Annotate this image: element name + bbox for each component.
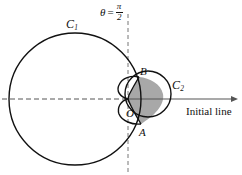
initial-line-arrowhead xyxy=(231,96,238,102)
diagram-canvas xyxy=(0,0,242,175)
theta-symbol: θ xyxy=(100,7,105,18)
label-curve-c1-subscript: 1 xyxy=(74,23,78,32)
label-point-a: A xyxy=(139,127,146,138)
equals-sign: = xyxy=(107,7,113,18)
label-point-o: O xyxy=(126,108,134,119)
label-initial-line: Initial line xyxy=(186,106,232,117)
fraction-denominator: 2 xyxy=(116,13,123,22)
label-curve-c2-subscript: 2 xyxy=(180,84,184,93)
label-point-b: B xyxy=(140,66,147,77)
label-curve-c1: C1 xyxy=(66,18,78,31)
label-curve-c2: C2 xyxy=(172,79,184,92)
label-curve-c1-text: C xyxy=(66,17,74,31)
label-theta-equals-half-pi: θ = π 2 xyxy=(100,2,123,23)
fraction-numerator: π xyxy=(116,2,123,11)
half-pi-fraction: π 2 xyxy=(116,2,123,23)
label-curve-c2-text: C xyxy=(172,78,180,92)
polar-diagram-figure: C1 C2 B O A Initial line θ = π 2 xyxy=(0,0,242,175)
